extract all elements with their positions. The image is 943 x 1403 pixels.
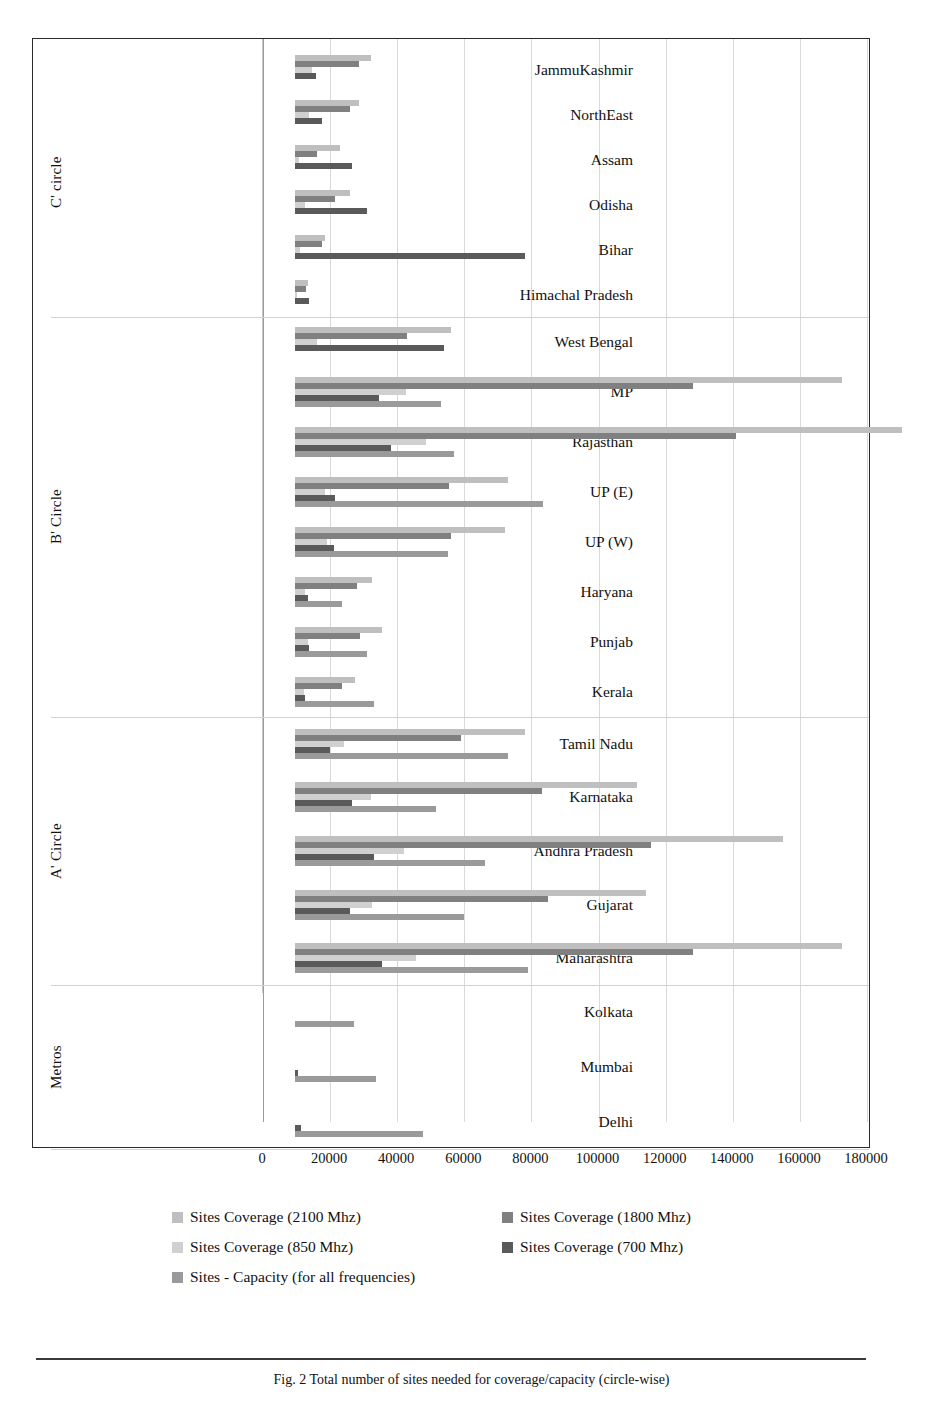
bar — [295, 860, 485, 866]
bar-group — [295, 467, 869, 517]
x-axis-tick-labels: 0200004000060000800001000001200001400001… — [32, 1150, 870, 1176]
legend-swatch-icon — [172, 1272, 183, 1283]
bar — [295, 1076, 376, 1082]
category-row: Odisha — [33, 182, 869, 227]
bar-group — [295, 931, 869, 985]
category-row: Kolkata — [33, 985, 869, 1040]
bar-group — [295, 137, 869, 182]
bar-group — [295, 1040, 869, 1095]
category-row: Tamil Nadu — [33, 717, 869, 771]
bar — [295, 967, 528, 973]
category-row: Kerala — [33, 667, 869, 717]
bar — [295, 806, 436, 812]
bar — [295, 298, 309, 304]
category-row: Delhi — [33, 1094, 869, 1149]
legend-label: Sites Coverage (700 Mhz) — [520, 1238, 683, 1256]
bar-group — [295, 1094, 869, 1149]
category-row: JammuKashmir — [33, 47, 869, 92]
chart-group: B' CircleWest BengalMPRajasthanUP (E)UP … — [33, 317, 869, 717]
legend-label: Sites Coverage (850 Mhz) — [190, 1238, 353, 1256]
x-tick-label: 180000 — [844, 1150, 888, 1167]
category-row: Karnataka — [33, 771, 869, 825]
bar — [295, 118, 322, 124]
bar-group — [295, 567, 869, 617]
bar-group — [295, 517, 869, 567]
bar — [295, 914, 464, 920]
bar-group — [295, 47, 869, 92]
legend-item: Sites Coverage (700 Mhz) — [502, 1238, 683, 1256]
bar — [295, 451, 454, 457]
bar — [295, 753, 508, 759]
legend-label: Sites Coverage (2100 Mhz) — [190, 1208, 361, 1226]
bar-group — [295, 667, 869, 717]
legend-row: Sites Coverage (850 Mhz)Sites Coverage (… — [32, 1238, 870, 1268]
bar-group — [295, 717, 869, 771]
bar — [295, 253, 525, 259]
figure-caption: Fig. 2 Total number of sites needed for … — [0, 1372, 943, 1388]
legend-swatch-icon — [172, 1212, 183, 1223]
x-tick-label: 40000 — [378, 1150, 414, 1167]
category-row: Mumbai — [33, 1040, 869, 1095]
bar-group — [295, 878, 869, 932]
bar-group — [295, 367, 869, 417]
category-row: Assam — [33, 137, 869, 182]
chart-group: MetrosKolkataMumbaiDelhi — [33, 985, 869, 1149]
category-row: West Bengal — [33, 317, 869, 367]
category-row: UP (W) — [33, 517, 869, 567]
category-row: Haryana — [33, 567, 869, 617]
bar — [295, 551, 448, 557]
legend-item: Sites Coverage (2100 Mhz) — [172, 1208, 361, 1226]
x-tick-label: 60000 — [445, 1150, 481, 1167]
bar — [295, 601, 342, 607]
bar — [295, 1131, 423, 1137]
category-row: Punjab — [33, 617, 869, 667]
caption-divider — [36, 1358, 866, 1360]
bar-group — [295, 272, 869, 317]
category-row: UP (E) — [33, 467, 869, 517]
legend-swatch-icon — [502, 1242, 513, 1253]
category-row: NorthEast — [33, 92, 869, 137]
bar-group — [295, 771, 869, 825]
bar-group — [295, 227, 869, 272]
bar — [295, 208, 367, 214]
bar-group — [295, 182, 869, 227]
category-row: Andhra Pradesh — [33, 824, 869, 878]
x-tick-label: 0 — [258, 1150, 265, 1167]
legend-item: Sites Coverage (850 Mhz) — [172, 1238, 353, 1256]
category-row: Bihar — [33, 227, 869, 272]
category-row: Rajasthan — [33, 417, 869, 467]
bar-group — [295, 417, 869, 467]
legend-swatch-icon — [502, 1212, 513, 1223]
x-tick-label: 160000 — [777, 1150, 821, 1167]
x-tick-label: 80000 — [512, 1150, 548, 1167]
x-tick-label: 140000 — [710, 1150, 754, 1167]
category-row: Maharashtra — [33, 931, 869, 985]
bar-group — [295, 985, 869, 1040]
bar — [295, 501, 543, 507]
chart-group: C' circleJammuKashmirNorthEastAssamOdish… — [33, 47, 869, 317]
bar — [295, 401, 441, 407]
legend-item: Sites Coverage (1800 Mhz) — [502, 1208, 691, 1226]
legend-label: Sites - Capacity (for all frequencies) — [190, 1268, 415, 1286]
category-row: Gujarat — [33, 878, 869, 932]
bar-group — [295, 824, 869, 878]
bar — [295, 345, 444, 351]
bar — [295, 73, 316, 79]
bar-group — [295, 617, 869, 667]
legend-label: Sites Coverage (1800 Mhz) — [520, 1208, 691, 1226]
chart-frame: C' circleJammuKashmirNorthEastAssamOdish… — [32, 38, 870, 1148]
category-row: MP — [33, 367, 869, 417]
bar — [295, 651, 367, 657]
chart-group: A' CircleTamil NaduKarnatakaAndhra Prade… — [33, 717, 869, 985]
legend-row: Sites - Capacity (for all frequencies) — [32, 1268, 870, 1298]
bar — [295, 1021, 354, 1027]
figure-container: C' circleJammuKashmirNorthEastAssamOdish… — [0, 0, 943, 1403]
bar — [295, 701, 374, 707]
category-row: Himachal Pradesh — [33, 272, 869, 317]
bar — [295, 163, 352, 169]
x-tick-label: 100000 — [576, 1150, 620, 1167]
bar-group — [295, 92, 869, 137]
legend-item: Sites - Capacity (for all frequencies) — [172, 1268, 415, 1286]
x-tick-label: 20000 — [311, 1150, 347, 1167]
legend-row: Sites Coverage (2100 Mhz)Sites Coverage … — [32, 1208, 870, 1238]
